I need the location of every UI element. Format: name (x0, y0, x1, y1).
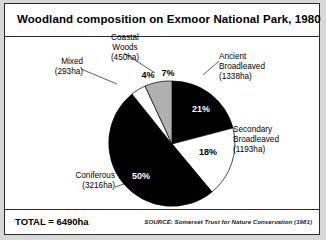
callout-mixed: Mixed (293ha) (23, 57, 83, 77)
leader-line-ancient-broadleaved (203, 61, 219, 75)
callout-coniferous-line2: (3216ha) (33, 181, 115, 191)
callout-ancient-broadleaved-line1: Ancient (219, 52, 305, 62)
pie-percent-coastal-woods: 7% (161, 68, 174, 78)
footer-bar: TOTAL = 6490ha SOURCE: Somerset Trust fo… (5, 209, 319, 234)
pie-percent-coniferous: 50% (132, 171, 150, 181)
callout-mixed-line2: (293ha) (23, 67, 83, 77)
callout-coastal-woods-line2: Woods (95, 43, 155, 53)
callout-coniferous: Coniferous (3216ha) (33, 171, 115, 191)
callout-ancient-broadleaved: Ancient Broadleaved (1338ha) (219, 52, 305, 82)
callout-ancient-broadleaved-line2: Broadleaved (219, 62, 305, 72)
title-bar: Woodland composition on Exmoor National … (5, 4, 319, 37)
callout-coastal-woods-line1: Coastal (95, 33, 155, 43)
pie-percent-ancient-broadleaved: 21% (192, 104, 210, 114)
callout-coastal-woods: Coastal Woods (450ha) (95, 33, 155, 63)
callout-secondary-broadleaved-line3: (1193ha) (233, 145, 319, 155)
callout-mixed-line1: Mixed (23, 57, 83, 67)
source-label: SOURCE: Somerset Trust for Nature Conser… (144, 218, 312, 225)
callout-coastal-woods-line3: (450ha) (95, 53, 155, 63)
total-label: TOTAL = 6490ha (15, 216, 89, 227)
callout-secondary-broadleaved-line1: Secondary (233, 125, 319, 135)
chart-title: Woodland composition on Exmoor National … (17, 13, 321, 25)
callout-secondary-broadleaved-line2: Broadleaved (233, 135, 319, 145)
pie-percent-secondary-broadleaved: 18% (199, 147, 217, 157)
callout-ancient-broadleaved-line3: (1338ha) (219, 72, 305, 82)
pie-percent-mixed: 4% (141, 70, 154, 80)
chart-figure: Woodland composition on Exmoor National … (4, 3, 320, 235)
pie-plot-area: 21% 18% 50% 4% 7% Coastal Woods (450ha) … (5, 37, 319, 210)
callout-coniferous-line1: Coniferous (33, 171, 115, 181)
callout-secondary-broadleaved: Secondary Broadleaved (1193ha) (233, 125, 319, 155)
leader-line-mixed (81, 69, 117, 84)
